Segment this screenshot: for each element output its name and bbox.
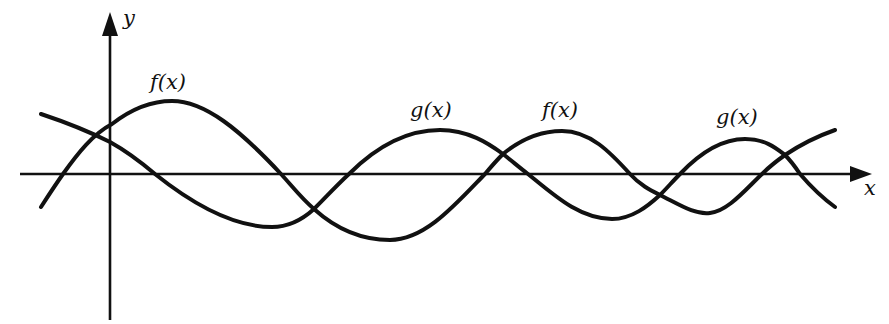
y-axis-label: y bbox=[123, 8, 135, 29]
curve-label-g-1: g(x) bbox=[410, 100, 452, 121]
y-axis bbox=[102, 12, 118, 320]
x-axis-label: x bbox=[864, 178, 876, 199]
curve-label-f-2: f(x) bbox=[542, 100, 578, 121]
y-axis-arrow-icon bbox=[102, 12, 118, 36]
function-graph bbox=[0, 0, 889, 324]
curve-label-g-2: g(x) bbox=[716, 107, 758, 128]
curve-label-f-1: f(x) bbox=[150, 72, 186, 93]
